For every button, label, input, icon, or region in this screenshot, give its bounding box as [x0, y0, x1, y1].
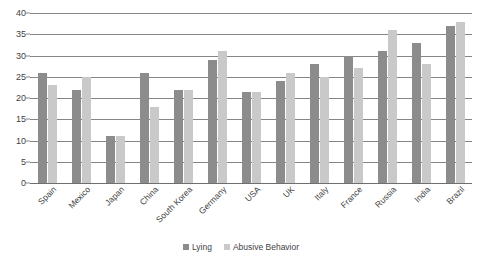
bar-lying[interactable] [412, 43, 421, 183]
legend-label: Abusive Behavior [233, 243, 299, 252]
y-axis-tick-label: 40 [16, 9, 26, 18]
x-axis-tick-label: Germany [197, 185, 228, 216]
legend-label: Lying [192, 243, 212, 252]
bar-chart: 0510152025303540 SpainMexicoJapanChinaSo… [0, 0, 482, 261]
legend-item[interactable]: Abusive Behavior [224, 243, 299, 252]
x-axis-tick-label: UK [282, 185, 296, 199]
x-axis: SpainMexicoJapanChinaSouth KoreaGermanyU… [30, 185, 472, 240]
y-axis-tick-label: 20 [16, 94, 26, 103]
chart-legend: LyingAbusive Behavior [0, 243, 482, 252]
bar-group [310, 13, 329, 183]
bars-layer [30, 13, 472, 183]
bar-abusive-behavior[interactable] [82, 77, 91, 183]
x-axis-tick-label: Mexico [67, 185, 92, 210]
x-axis-tick-label: Russia [374, 185, 398, 209]
bar-abusive-behavior[interactable] [252, 92, 261, 183]
bar-abusive-behavior[interactable] [218, 51, 227, 183]
y-axis-tick-label: 35 [16, 30, 26, 39]
bar-group [140, 13, 159, 183]
x-axis-tick-label: USA [244, 185, 262, 203]
bar-group [106, 13, 125, 183]
bar-abusive-behavior[interactable] [354, 68, 363, 183]
bar-lying[interactable] [446, 26, 455, 183]
bar-abusive-behavior[interactable] [184, 90, 193, 184]
bar-group [72, 13, 91, 183]
bar-lying[interactable] [140, 73, 149, 184]
y-axis-tick-label: 25 [16, 72, 26, 81]
bar-lying[interactable] [242, 92, 251, 183]
legend-swatch-icon [224, 244, 230, 250]
bar-group [174, 13, 193, 183]
bar-abusive-behavior[interactable] [320, 77, 329, 183]
bar-group [412, 13, 431, 183]
bar-abusive-behavior[interactable] [150, 107, 159, 184]
bar-lying[interactable] [276, 81, 285, 183]
bar-group [276, 13, 295, 183]
bar-lying[interactable] [72, 90, 81, 184]
bar-abusive-behavior[interactable] [388, 30, 397, 183]
bar-group [446, 13, 465, 183]
bar-lying[interactable] [106, 136, 115, 183]
legend-item[interactable]: Lying [183, 243, 212, 252]
x-axis-tick-label: India [413, 185, 432, 204]
x-axis-tick-label: Italy [313, 185, 330, 202]
bar-lying[interactable] [310, 64, 319, 183]
bar-group [38, 13, 57, 183]
bar-lying[interactable] [208, 60, 217, 183]
x-axis-tick-label: Japan [104, 185, 126, 207]
bar-lying[interactable] [38, 73, 47, 184]
bar-lying[interactable] [344, 56, 353, 184]
bar-abusive-behavior[interactable] [456, 22, 465, 184]
bar-group [208, 13, 227, 183]
bar-group [344, 13, 363, 183]
x-axis-tick-label: Brazil [445, 185, 466, 206]
bar-abusive-behavior[interactable] [48, 85, 57, 183]
gridline [30, 183, 472, 184]
bar-lying[interactable] [174, 90, 183, 184]
y-axis-tick-label: 30 [16, 51, 26, 60]
bar-group [242, 13, 261, 183]
y-axis: 0510152025303540 [0, 13, 26, 183]
y-axis-tick-label: 15 [16, 115, 26, 124]
legend-swatch-icon [183, 244, 189, 250]
bar-group [378, 13, 397, 183]
bar-abusive-behavior[interactable] [116, 136, 125, 183]
chart-title-cropped [0, 0, 482, 5]
bar-abusive-behavior[interactable] [286, 73, 295, 184]
bar-abusive-behavior[interactable] [422, 64, 431, 183]
bar-lying[interactable] [378, 51, 387, 183]
y-axis-tick-label: 10 [16, 136, 26, 145]
x-axis-tick-label: France [339, 185, 364, 210]
x-axis-tick-label: China [138, 185, 160, 207]
x-axis-tick-label: Spain [37, 185, 58, 206]
